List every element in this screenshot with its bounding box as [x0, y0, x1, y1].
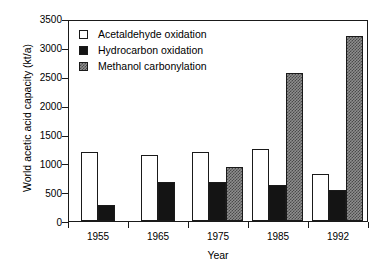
bar-1992-hydrocarbon-oxidation — [329, 190, 346, 221]
x-tick-mark — [308, 222, 309, 228]
legend-label: Hydrocarbon oxidation — [98, 45, 203, 56]
bar-chart: World acetic acid capacity (kt/a) 3500 3… — [0, 0, 387, 274]
y-tick-label: 500 — [28, 189, 62, 199]
y-tick-label: 2000 — [28, 102, 62, 112]
y-axis-tick-labels: 3500 3000 2500 2000 1500 1000 500 0 — [26, 0, 62, 274]
legend-item-acetaldehyde-oxidation: Acetaldehyde oxidation — [79, 27, 207, 42]
x-tick-label: 1975 — [188, 232, 248, 242]
x-tick-mark — [188, 222, 189, 228]
legend: Acetaldehyde oxidation Hydrocarbon oxida… — [79, 27, 207, 75]
x-tick-label: 1965 — [128, 232, 188, 242]
bar-1955-acetaldehyde-oxidation — [81, 152, 98, 221]
x-tick-mark — [248, 222, 249, 228]
bar-1985-hydrocarbon-oxidation — [269, 185, 286, 221]
y-tick-label: 3500 — [28, 15, 62, 25]
bar-1955-hydrocarbon-oxidation — [98, 205, 115, 221]
x-tick-label: 1955 — [68, 232, 128, 242]
bar-1985-methanol-carbonylation — [286, 73, 303, 221]
y-tick-label: 3000 — [28, 44, 62, 54]
bar-1965-acetaldehyde-oxidation — [141, 155, 158, 221]
bar-1975-acetaldehyde-oxidation — [192, 152, 209, 221]
legend-item-hydrocarbon-oxidation: Hydrocarbon oxidation — [79, 43, 207, 58]
bar-1992-methanol-carbonylation — [346, 36, 363, 221]
legend-item-methanol-carbonylation: Methanol carbonylation — [79, 59, 207, 74]
legend-swatch-icon — [79, 62, 88, 71]
legend-label: Acetaldehyde oxidation — [98, 29, 207, 40]
bar-1992-acetaldehyde-oxidation — [312, 174, 329, 221]
y-tick-label: 0 — [28, 218, 62, 228]
x-tick-label: 1992 — [308, 232, 368, 242]
bar-1975-hydrocarbon-oxidation — [209, 182, 226, 221]
y-tick-label: 2500 — [28, 73, 62, 83]
x-tick-mark — [128, 222, 129, 228]
legend-swatch-icon — [79, 30, 88, 39]
bar-1985-acetaldehyde-oxidation — [252, 149, 269, 221]
bar-1975-methanol-carbonylation — [226, 167, 243, 221]
y-tick-label: 1500 — [28, 131, 62, 141]
x-tick-label: 1985 — [248, 232, 308, 242]
x-axis-title: Year — [68, 250, 368, 261]
x-tick-mark — [68, 222, 69, 228]
x-tick-mark — [368, 222, 369, 228]
legend-label: Methanol carbonylation — [98, 61, 207, 72]
bar-1965-hydrocarbon-oxidation — [158, 182, 175, 221]
y-tick-label: 1000 — [28, 160, 62, 170]
plot-area: Acetaldehyde oxidation Hydrocarbon oxida… — [68, 20, 368, 222]
legend-swatch-icon — [79, 46, 88, 55]
